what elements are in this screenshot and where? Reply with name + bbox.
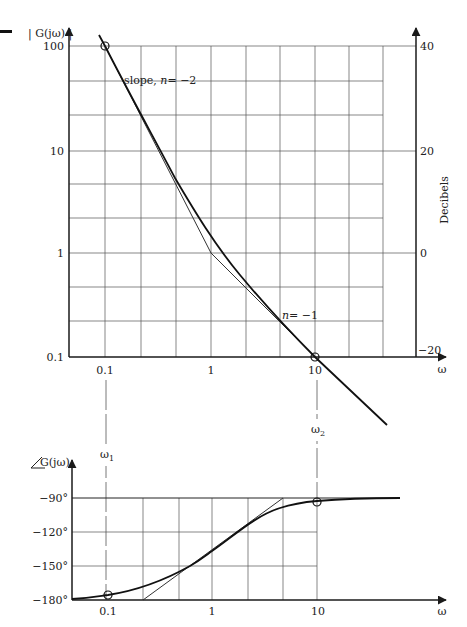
- phase-tick-minus120: −120°: [32, 526, 68, 539]
- decibels-label: Decibels: [438, 176, 451, 224]
- y-tick-0.1: 0.1: [47, 351, 65, 364]
- phase-omega-label: ω: [438, 605, 447, 618]
- x-tick-1: 1: [208, 364, 215, 377]
- phase-tick-minus150: −150°: [32, 560, 68, 573]
- phase-curve: [72, 498, 400, 599]
- page-mark: [0, 30, 12, 33]
- db-tick-0: 0: [420, 247, 427, 260]
- phase-x-tick-10: 10: [311, 605, 325, 618]
- phase-x-tick-1: 1: [209, 605, 216, 618]
- phase-asymptote: [143, 498, 283, 600]
- phase-ylabel: G(jω): [40, 456, 70, 469]
- x-tick-10: 10: [308, 364, 322, 377]
- phase-tick-minus90: −90°: [39, 492, 68, 505]
- magnitude-curve: [99, 35, 387, 425]
- y-tick-100: 100: [43, 40, 64, 53]
- db-tick-minus20: −20: [418, 344, 441, 357]
- x-tick-0.1: 0.1: [96, 364, 114, 377]
- bode-plot-figure: | G(jω) | 100 10 1 0.1 40 20 0 −20 Decib…: [0, 0, 467, 627]
- phase-tick-minus180: −180°: [32, 594, 68, 607]
- y-tick-1: 1: [57, 247, 64, 260]
- db-tick-20: 20: [420, 145, 434, 158]
- phase-grid: [72, 498, 317, 600]
- magnitude-ylabel: | G(jω) |: [28, 27, 72, 41]
- db-tick-40: 40: [420, 40, 434, 53]
- magnitude-grid: [69, 46, 416, 357]
- slope-annotation: slope, n= −2: [124, 74, 196, 87]
- phase-axes: [72, 460, 446, 600]
- slope-n1-annotation: n= −1: [282, 309, 318, 322]
- y-tick-10: 10: [50, 145, 64, 158]
- phase-x-tick-0.1: 0.1: [99, 605, 117, 618]
- omega-axis-label: ω: [438, 363, 447, 376]
